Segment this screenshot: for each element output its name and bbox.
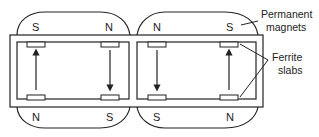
pole-label: S (153, 111, 160, 123)
pole-label: N (226, 111, 234, 123)
ferrite-slabs-label: Ferrite (272, 51, 302, 63)
ferrite-slab (148, 95, 166, 100)
pole-label: N (32, 111, 40, 123)
ferrite-slab (101, 42, 119, 47)
ferrite-slab (220, 42, 238, 47)
ferrite-slab (27, 42, 45, 47)
pole-label: S (106, 111, 113, 123)
permanent-magnets-label: magnets (266, 21, 306, 33)
magnets-leader (241, 21, 258, 25)
ferrite-slab (101, 95, 119, 100)
ferrite-slab (220, 95, 238, 100)
slabs-leader (240, 60, 268, 97)
pole-label: N (105, 21, 113, 33)
ferrite-slab (148, 42, 166, 47)
left-inner-loop (17, 42, 129, 99)
ferrite-slabs-label: slabs (278, 64, 303, 76)
permanent-magnets-label: Permanent (261, 8, 312, 20)
slabs-leader (240, 44, 268, 60)
pole-label: S (226, 21, 233, 33)
ferrite-slab (27, 95, 45, 100)
pole-label: N (153, 21, 161, 33)
right-inner-loop (137, 42, 256, 99)
pole-label: S (32, 21, 39, 33)
magnet-diagram: S N N S N S S N Permanent magnets Ferrit… (0, 0, 319, 137)
